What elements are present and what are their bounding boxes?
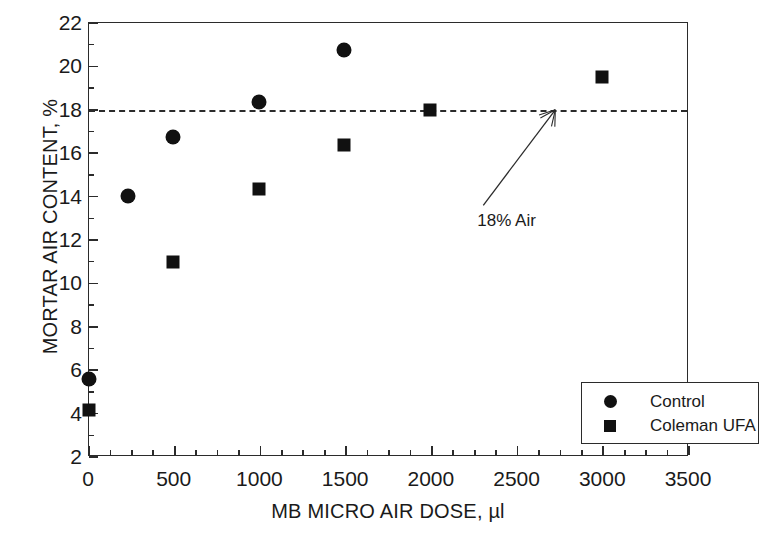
x-tick-mark bbox=[324, 450, 326, 455]
y-tick-label-20: 20 bbox=[36, 55, 82, 76]
y-tick-label-16: 16 bbox=[36, 142, 82, 163]
y-tick-mark bbox=[89, 261, 94, 263]
x-tick-mark bbox=[345, 446, 347, 455]
legend: ControlColeman UFA bbox=[581, 382, 759, 444]
y-tick-mark bbox=[89, 66, 98, 68]
data-point-coleman-ufa bbox=[252, 183, 265, 196]
y-tick-mark bbox=[89, 196, 98, 198]
y-tick-label-2: 2 bbox=[36, 446, 82, 467]
x-tick-mark bbox=[367, 450, 369, 455]
x-tick-mark bbox=[624, 450, 626, 455]
data-point-coleman-ufa bbox=[83, 404, 96, 417]
reference-line-18-percent-air bbox=[89, 110, 687, 112]
data-point-control bbox=[121, 188, 136, 203]
x-tick-mark bbox=[88, 446, 90, 455]
x-tick-mark bbox=[688, 446, 690, 455]
x-tick-mark bbox=[410, 450, 412, 455]
data-point-control bbox=[337, 43, 352, 58]
x-tick-mark bbox=[581, 450, 583, 455]
x-tick-mark bbox=[281, 450, 283, 455]
x-tick-mark bbox=[645, 450, 647, 455]
y-tick-mark bbox=[89, 152, 98, 154]
x-tick-label-1500: 1500 bbox=[300, 468, 390, 489]
y-tick-mark bbox=[89, 174, 94, 176]
x-tick-label-500: 500 bbox=[129, 468, 219, 489]
y-tick-label-22: 22 bbox=[36, 12, 82, 33]
y-tick-mark bbox=[89, 326, 98, 328]
x-tick-label-1000: 1000 bbox=[214, 468, 304, 489]
y-tick-label-14: 14 bbox=[36, 185, 82, 206]
x-tick-mark bbox=[217, 450, 219, 455]
x-tick-mark bbox=[602, 446, 604, 455]
x-tick-mark bbox=[431, 446, 433, 455]
annotation-18-percent-air: 18% Air bbox=[477, 211, 536, 231]
data-point-control bbox=[251, 95, 266, 110]
y-tick-mark bbox=[89, 348, 94, 350]
data-point-coleman-ufa bbox=[595, 71, 608, 84]
y-tick-label-4: 4 bbox=[36, 402, 82, 423]
x-tick-mark bbox=[195, 450, 197, 455]
x-tick-label-2500: 2500 bbox=[472, 468, 562, 489]
x-tick-mark bbox=[474, 450, 476, 455]
x-tick-mark bbox=[174, 446, 176, 455]
x-axis-title: MB MICRO AIR DOSE, µl bbox=[88, 500, 688, 523]
y-tick-mark bbox=[89, 283, 98, 285]
x-tick-mark bbox=[560, 450, 562, 455]
x-tick-mark bbox=[388, 450, 390, 455]
y-tick-label-12: 12 bbox=[36, 229, 82, 250]
data-point-coleman-ufa bbox=[338, 138, 351, 151]
y-tick-label-10: 10 bbox=[36, 272, 82, 293]
y-tick-mark bbox=[89, 22, 98, 24]
x-tick-mark bbox=[538, 450, 540, 455]
x-tick-label-3000: 3000 bbox=[557, 468, 647, 489]
data-point-coleman-ufa bbox=[424, 103, 437, 116]
legend-label: Coleman UFA bbox=[650, 417, 756, 434]
x-tick-mark bbox=[517, 446, 519, 455]
y-tick-mark bbox=[89, 131, 94, 133]
x-tick-label-2000: 2000 bbox=[386, 468, 476, 489]
x-tick-mark bbox=[495, 450, 497, 455]
legend-label: Control bbox=[650, 393, 705, 410]
y-tick-mark bbox=[89, 87, 94, 89]
y-tick-label-18: 18 bbox=[36, 98, 82, 119]
x-tick-mark bbox=[452, 450, 454, 455]
x-tick-mark bbox=[152, 450, 154, 455]
y-tick-mark bbox=[89, 304, 94, 306]
x-tick-mark bbox=[110, 450, 112, 455]
y-tick-label-8: 8 bbox=[36, 315, 82, 336]
y-tick-mark bbox=[89, 435, 94, 437]
x-tick-mark bbox=[667, 450, 669, 455]
plot-area: 18% Air ControlColeman UFA bbox=[88, 22, 688, 456]
x-tick-label-0: 0 bbox=[43, 468, 133, 489]
x-tick-mark bbox=[302, 450, 304, 455]
square-marker-icon bbox=[604, 420, 650, 432]
data-point-control bbox=[166, 129, 181, 144]
y-tick-mark bbox=[89, 239, 98, 241]
legend-item-coleman-ufa[interactable]: Coleman UFA bbox=[604, 415, 756, 436]
y-tick-mark bbox=[89, 391, 94, 393]
y-tick-mark bbox=[89, 456, 98, 458]
x-tick-mark bbox=[131, 450, 133, 455]
circle-marker-icon bbox=[604, 395, 650, 408]
legend-item-control[interactable]: Control bbox=[604, 391, 756, 412]
x-tick-mark bbox=[260, 446, 262, 455]
y-tick-mark bbox=[89, 44, 94, 46]
y-tick-mark bbox=[89, 218, 94, 220]
y-tick-label-6: 6 bbox=[36, 359, 82, 380]
x-tick-mark bbox=[238, 450, 240, 455]
data-point-control bbox=[82, 371, 97, 386]
x-tick-label-3500: 3500 bbox=[643, 468, 733, 489]
data-point-coleman-ufa bbox=[167, 255, 180, 268]
